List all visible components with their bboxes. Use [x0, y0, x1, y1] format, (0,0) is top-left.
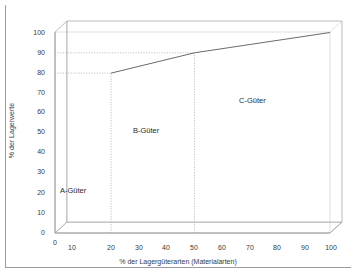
zone-label-c-gueter: C-Güter: [239, 96, 266, 105]
y-tick-10: 10: [23, 209, 45, 217]
y-tick-40: 40: [23, 148, 45, 156]
y-tick-30: 30: [23, 168, 45, 176]
x-tick-70: 70: [239, 244, 261, 252]
y-tick-50: 50: [23, 128, 45, 136]
zone-label-b-gueter: B-Güter: [133, 126, 159, 135]
x-tick-40: 40: [155, 244, 177, 252]
y-axis-title: % der Lagerwerte: [8, 81, 15, 181]
x-tick-60: 60: [211, 244, 233, 252]
x-tick-10: 10: [61, 244, 83, 252]
x-tick-30: 30: [128, 244, 150, 252]
y-tick-60: 60: [23, 108, 45, 116]
x-axis-title: % der Lagergüterarten (Materialarten): [0, 258, 356, 265]
x-tick-50: 50: [183, 244, 205, 252]
x-tick-100: 100: [320, 244, 342, 252]
y-tick-100: 100: [23, 29, 45, 37]
chart-3d-box: [0, 0, 356, 274]
y-tick-0: 0: [23, 229, 45, 237]
zone-label-a-gueter: A-Güter: [60, 186, 86, 195]
floor-plane: [55, 222, 342, 233]
y-tick-90: 90: [23, 49, 45, 57]
y-tick-80: 80: [23, 69, 45, 77]
x-tick-20: 20: [100, 244, 122, 252]
x-tick-80: 80: [266, 244, 288, 252]
x-tick-90: 90: [294, 244, 316, 252]
y-tick-70: 70: [23, 89, 45, 97]
y-tick-20: 20: [23, 189, 45, 197]
chart-screenshot: 0 10 20 30 40 50 60 70 80 90 100 0 10 20…: [0, 0, 356, 274]
